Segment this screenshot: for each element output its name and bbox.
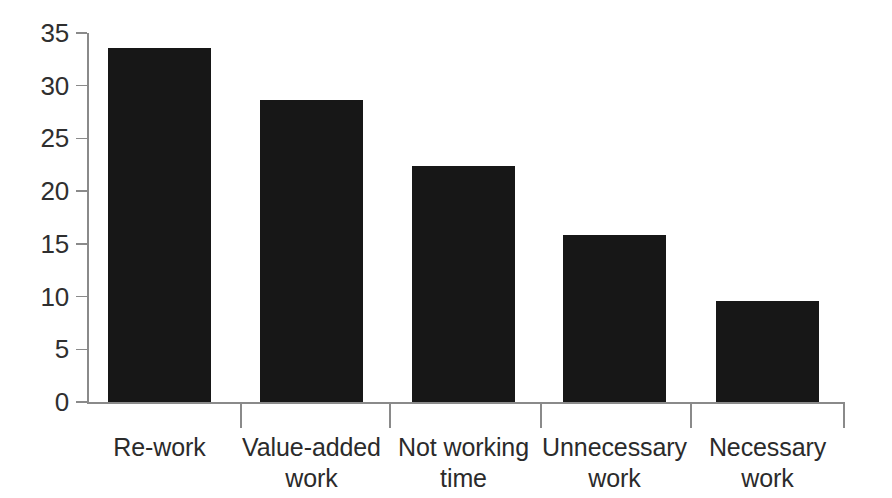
y-axis-tick-mark [76, 349, 87, 351]
y-axis-tick-label: 10 [9, 281, 69, 313]
x-axis-category-label: Necessary work [663, 432, 873, 494]
bar [260, 100, 363, 402]
y-axis-tick-label: 35 [9, 17, 69, 49]
bar-chart: 05101520253035 Re-workValue-added workNo… [0, 0, 892, 498]
y-axis-tick-label: 20 [9, 175, 69, 207]
x-axis-separator-tick [240, 402, 242, 428]
y-axis-tick-mark [76, 85, 87, 87]
y-axis-tick-mark [76, 138, 87, 140]
x-axis-separator-tick [843, 402, 845, 428]
y-axis-tick-label: 15 [9, 228, 69, 260]
y-axis-tick-mark [76, 32, 87, 34]
x-axis-separator-tick [690, 402, 692, 428]
bar [563, 235, 666, 402]
y-axis-tick-mark [76, 401, 87, 403]
x-axis-line [87, 402, 844, 404]
y-axis-tick-mark [76, 243, 87, 245]
y-axis-tick-label: 5 [9, 333, 69, 365]
y-axis-tick-mark [76, 296, 87, 298]
y-axis-tick-label: 25 [9, 122, 69, 154]
y-axis-tick-label: 0 [9, 386, 69, 418]
bar [716, 301, 819, 402]
bar [108, 48, 211, 402]
y-axis-line [87, 33, 89, 403]
y-axis-tick-label: 30 [9, 70, 69, 102]
x-axis-separator-tick [389, 402, 391, 428]
y-axis-tick-mark [76, 190, 87, 192]
bar [412, 166, 515, 402]
x-axis-separator-tick [540, 402, 542, 428]
